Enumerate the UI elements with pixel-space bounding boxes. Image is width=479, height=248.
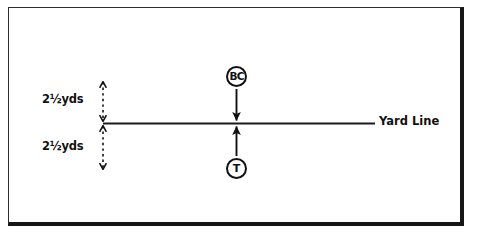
diagram-root: 2½yds 2½yds Yard Line BC T bbox=[0, 0, 479, 248]
ball-carrier-marker-label: BC bbox=[229, 71, 243, 82]
dimension-label-top: 2½yds bbox=[42, 92, 83, 106]
tackler-marker-label: T bbox=[233, 163, 241, 174]
ball-carrier-marker: BC bbox=[226, 66, 247, 87]
yard-line-label: Yard Line bbox=[379, 114, 439, 128]
dimension-label-bottom: 2½yds bbox=[42, 139, 83, 153]
tackler-marker: T bbox=[226, 158, 247, 179]
